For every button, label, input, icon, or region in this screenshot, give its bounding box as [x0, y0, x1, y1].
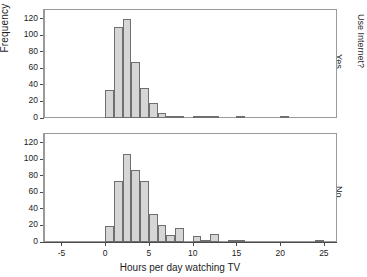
y-axis-spine — [43, 133, 44, 242]
y-tick-label: 20 — [29, 95, 38, 105]
x-tick-label: 20 — [275, 248, 284, 258]
y-tick-label: 100 — [24, 29, 38, 39]
y-tick-label: 80 — [29, 46, 38, 56]
y-tick-label: 40 — [29, 79, 38, 89]
x-tick-label: 0 — [103, 248, 108, 258]
histogram-bar — [105, 90, 114, 118]
histogram-bar — [175, 228, 184, 242]
y-axis-spine — [43, 9, 44, 118]
histogram-bar — [193, 116, 202, 118]
y-tick-label: 120 — [24, 13, 38, 23]
x-axis-tick — [193, 242, 194, 246]
histogram-bar — [149, 214, 158, 242]
x-axis-title: Hours per day watching TV — [60, 262, 300, 273]
y-tick-label: 20 — [29, 219, 38, 229]
x-axis-tick — [149, 242, 150, 246]
histogram-bar — [280, 116, 289, 118]
x-tick-label: 5 — [147, 248, 152, 258]
plot-area-no — [44, 133, 337, 242]
x-tick-label: 10 — [188, 248, 197, 258]
x-axis: -50510152025 — [44, 242, 337, 262]
histogram-bar — [158, 113, 167, 118]
histogram-bar — [123, 19, 132, 118]
histogram-bar — [175, 116, 184, 118]
y-axis-title: Frequency — [0, 0, 10, 88]
x-tick-label: -5 — [58, 248, 66, 258]
y-tick-label: 0 — [33, 236, 38, 246]
x-axis-tick — [236, 242, 237, 246]
x-axis-tick — [280, 242, 281, 246]
x-axis-tick — [324, 242, 325, 246]
histogram-bar — [140, 88, 149, 118]
x-tick-label: 25 — [319, 248, 328, 258]
histogram-bar — [149, 103, 158, 118]
y-tick-label: 80 — [29, 170, 38, 180]
histogram-bar — [158, 225, 167, 242]
histogram-bar — [123, 154, 132, 242]
histogram-bar — [105, 226, 114, 242]
x-tick-label: 15 — [232, 248, 241, 258]
x-axis-tick — [105, 242, 106, 246]
x-axis-spine — [44, 242, 337, 243]
histogram-bar — [210, 116, 219, 118]
histogram-bar — [236, 116, 245, 118]
histogram-bar — [210, 234, 219, 242]
histogram-bar — [114, 27, 123, 118]
x-axis-tick — [61, 242, 62, 246]
y-tick-label: 60 — [29, 62, 38, 72]
histogram-bar — [114, 181, 123, 242]
y-tick-label: 100 — [24, 153, 38, 163]
chart-root: Frequency Hours per day watching TV Use … — [0, 0, 367, 277]
y-tick-label: 60 — [29, 186, 38, 196]
panel-variable-title: Use Internet? — [356, 0, 366, 96]
panel-no — [44, 133, 337, 242]
histogram-bar — [131, 170, 140, 242]
histogram-bar — [131, 62, 140, 118]
y-tick-label: 40 — [29, 203, 38, 213]
histogram-bar — [201, 116, 210, 118]
y-tick-label: 0 — [33, 112, 38, 122]
histogram-bar — [166, 116, 175, 118]
panel-yes — [44, 9, 337, 118]
y-tick-label: 120 — [24, 137, 38, 147]
histogram-bar — [166, 235, 175, 242]
plot-area-yes — [44, 9, 337, 118]
histogram-bar — [140, 181, 149, 242]
